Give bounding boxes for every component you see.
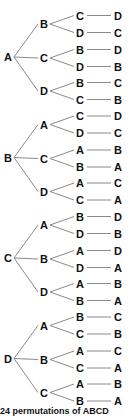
tree-branch-line	[50, 384, 74, 393]
tree-level2-node: B	[76, 295, 84, 307]
tree-level1-node: C	[40, 52, 48, 64]
tree-branch-line	[50, 284, 74, 293]
tree-branch-line	[50, 217, 74, 226]
tree-branch-line	[14, 225, 38, 258]
tree-level2-node: D	[76, 228, 84, 240]
tree-branch-line	[50, 83, 74, 92]
tree-level2-node: C	[76, 94, 84, 106]
tree-branch-line	[50, 125, 74, 134]
tree-level2-node: B	[76, 311, 84, 323]
tree-branch-line	[50, 326, 74, 335]
tree-leaf-node: C	[114, 177, 122, 189]
caption-cutoff: 24 permutations of ABCD	[0, 406, 133, 416]
tree-branch-line	[50, 58, 74, 67]
tree-leaf-node: C	[114, 345, 122, 357]
tree-branch-line	[14, 158, 38, 159]
tree-level2-node: B	[76, 77, 84, 89]
tree-level1-node: A	[40, 320, 48, 332]
tree-leaf-node: B	[114, 144, 122, 156]
tree-leaf-node: C	[114, 27, 122, 39]
tree-branch-line	[14, 258, 38, 292]
tree-leaf-node: A	[114, 295, 122, 307]
tree-branch-line	[50, 225, 74, 234]
tree-leaf-node: B	[114, 378, 122, 390]
tree-branch-line	[50, 50, 74, 59]
tree-level1-node: D	[40, 85, 48, 97]
tree-leaf-node: D	[114, 211, 122, 223]
tree-root-node: A	[4, 51, 12, 63]
tree-branch-line	[50, 183, 74, 192]
tree-level1-node: A	[40, 119, 48, 131]
tree-level2-node: B	[76, 161, 84, 173]
tree-branch-line	[50, 192, 74, 201]
tree-level2-node: B	[76, 211, 84, 223]
tree-level1-node: B	[40, 354, 48, 366]
tree-level1-node: A	[40, 219, 48, 231]
tree-branch-line	[14, 359, 38, 393]
tree-leaf-node: B	[114, 228, 122, 240]
tree-level2-node: A	[76, 177, 84, 189]
tree-leaf-node: C	[114, 77, 122, 89]
tree-leaf-node: A	[114, 262, 122, 274]
tree-branch-line	[50, 393, 74, 402]
tree-level2-node: C	[76, 328, 84, 340]
tree-leaf-node: C	[114, 311, 122, 323]
tree-branch-line	[14, 158, 38, 192]
tree-branch-line	[50, 251, 74, 260]
tree-branch-line	[14, 24, 38, 57]
tree-branch-line	[14, 258, 38, 259]
tree-leaf-node: B	[114, 94, 122, 106]
tree-level2-node: C	[76, 110, 84, 122]
tree-branch-line	[50, 259, 74, 268]
tree-branch-line	[50, 16, 74, 25]
tree-branch-line	[50, 24, 74, 33]
tree-level2-node: A	[76, 345, 84, 357]
tree-level1-node: B	[40, 18, 48, 30]
tree-branch-line	[14, 359, 38, 360]
tree-leaf-node: B	[114, 61, 122, 73]
tree-root-node: B	[4, 152, 12, 164]
tree-level1-node: D	[40, 286, 48, 298]
tree-leaf-node: A	[114, 362, 122, 374]
tree-branch-line	[50, 317, 74, 326]
tree-leaf-node: B	[114, 328, 122, 340]
tree-branch-line	[50, 360, 74, 369]
tree-level2-node: C	[76, 10, 84, 22]
tree-level2-node: B	[76, 44, 84, 56]
tree-level2-node: A	[76, 245, 84, 257]
tree-leaf-node: A	[114, 194, 122, 206]
tree-level1-node: C	[40, 153, 48, 165]
tree-level1-node: C	[40, 387, 48, 399]
tree-branch-line	[50, 292, 74, 301]
tree-branch-line	[50, 150, 74, 159]
tree-level2-node: A	[76, 378, 84, 390]
tree-level2-node: D	[76, 61, 84, 73]
tree-leaf-node: C	[114, 127, 122, 139]
tree-branch-line	[50, 91, 74, 100]
tree-leaf-node: D	[114, 10, 122, 22]
tree-level2-node: A	[76, 144, 84, 156]
tree-branch-line	[50, 116, 74, 125]
tree-branch-line	[14, 326, 38, 359]
tree-leaf-node: A	[114, 161, 122, 173]
tree-level1-node: D	[40, 186, 48, 198]
tree-level2-node: C	[76, 362, 84, 374]
tree-level2-node: D	[76, 262, 84, 274]
tree-root-node: C	[4, 252, 12, 264]
tree-level1-node: B	[40, 253, 48, 265]
tree-leaf-node: B	[114, 278, 122, 290]
tree-level2-node: A	[76, 278, 84, 290]
tree-branch-line	[50, 159, 74, 168]
tree-level2-node: C	[76, 194, 84, 206]
tree-leaf-node: D	[114, 245, 122, 257]
tree-leaf-node: D	[114, 110, 122, 122]
tree-leaf-node: D	[114, 44, 122, 56]
tree-level2-node: D	[76, 127, 84, 139]
tree-branch-line	[14, 57, 38, 58]
tree-branch-line	[14, 125, 38, 158]
tree-branch-line	[50, 351, 74, 360]
tree-branch-line	[14, 57, 38, 91]
tree-level2-node: D	[76, 27, 84, 39]
tree-root-node: D	[4, 353, 12, 365]
